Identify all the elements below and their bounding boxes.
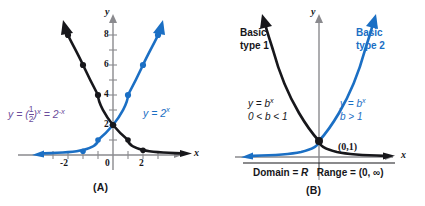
- domain-prefix: Domain =: [253, 167, 301, 178]
- curve-black-right-arrow-a: [180, 150, 192, 157]
- curve-blue-left-arrow-b: [241, 153, 253, 160]
- basic-type-2-line2: type 2: [356, 40, 385, 51]
- label-eq-exponent-2: -x: [59, 107, 65, 116]
- label-basic-type-1: Basictype 1: [240, 27, 269, 52]
- caption-panel-b: (B): [306, 184, 321, 196]
- label-basic-type-2: Basictype 2: [356, 27, 385, 52]
- y-axis-label-a: y: [105, 6, 109, 17]
- intercept-point-b: [315, 137, 323, 145]
- caption-panel-a: (A): [93, 181, 108, 193]
- y-tick-label-6: 6: [104, 59, 109, 69]
- x-tick-label-neg2: -2: [60, 158, 68, 168]
- y-axis-arrow-a: [109, 14, 117, 23]
- label-y-intercept: (0,1): [338, 141, 357, 152]
- eq-left-exponent: x: [270, 96, 274, 105]
- basic-type-2-line1: Basic: [356, 27, 383, 38]
- label-equation-blue-a: y = 2x: [143, 106, 170, 119]
- range-prefix: Range =: [317, 167, 359, 178]
- label-eq-second: = 2: [41, 108, 59, 120]
- figure-container: y = (12)x = 2-x y = 2x 8 6 4 2 -2 0 2 y …: [0, 0, 425, 206]
- curve-black-a: [68, 35, 182, 153]
- label-equation-left-b: y = bx0 < b < 1: [248, 96, 287, 123]
- eq-right-exponent: x: [362, 96, 366, 105]
- label-equation-right-b: y = bxb > 1: [340, 96, 366, 123]
- x-tick-label-2: 2: [139, 158, 144, 168]
- label-eq-blue-base: y = 2: [143, 107, 166, 119]
- y-axis-arrow-b: [315, 14, 323, 23]
- x-axis-label-b: x: [401, 149, 406, 160]
- panel-a: y = (12)x = 2-x y = 2x 8 6 4 2 -2 0 2 y …: [0, 0, 213, 206]
- curve-blue-a: [44, 35, 158, 153]
- eq-left-base: y = b: [248, 98, 270, 109]
- label-eq-blue-exponent: x: [166, 105, 170, 114]
- basic-type-1-line1: Basic: [240, 27, 267, 38]
- label-eq-prefix: y = (: [8, 108, 29, 120]
- y-tick-label-4: 4: [104, 89, 109, 99]
- eq-left-condition: 0 < b < 1: [248, 111, 287, 122]
- range-value: (0, ∞): [359, 167, 384, 178]
- x-axis-label-a: x: [194, 147, 199, 158]
- y-axis-label-b: y: [311, 6, 315, 17]
- label-equation-black-a: y = (12)x = 2-x: [8, 105, 65, 123]
- eq-right-base: y = b: [340, 98, 362, 109]
- label-domain-range: Domain = R | Range = (0, ∞): [253, 167, 384, 178]
- panel-b: Basictype 1 Basictype 2 y = bx0 < b < 1 …: [213, 0, 425, 206]
- y-tick-label-2: 2: [104, 119, 109, 129]
- eq-right-condition: b > 1: [340, 111, 363, 122]
- y-tick-label-8: 8: [104, 29, 109, 39]
- basic-type-1-line2: type 1: [240, 40, 269, 51]
- x-tick-label-origin: 0: [105, 158, 110, 168]
- curve-blue-left-arrow-a: [32, 150, 44, 157]
